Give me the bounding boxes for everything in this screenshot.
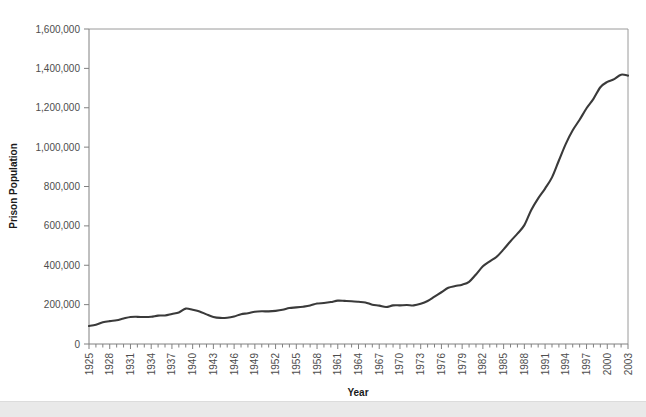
x-tick-label: 1940	[187, 353, 198, 376]
y-tick-label: 1,400,000	[36, 63, 81, 74]
x-tick-label: 1928	[104, 353, 115, 376]
x-tick-label: 1997	[581, 353, 592, 376]
x-tick-label: 1946	[229, 353, 240, 376]
x-tick-label: 2000	[602, 353, 613, 376]
figure-card: 0200,000400,000600,000800,0001,000,0001,…	[0, 0, 646, 401]
x-tick-label: 1994	[560, 353, 571, 376]
x-tick-label: 1952	[270, 353, 281, 376]
x-tick-label: 1988	[519, 353, 530, 376]
x-tick-label: 1991	[540, 353, 551, 376]
y-axis-tick-labels: 0200,000400,000600,000800,0001,000,0001,…	[36, 24, 81, 350]
x-axis-title: Year	[347, 387, 368, 398]
x-tick-label: 1961	[332, 353, 343, 376]
chart-canvas: 0200,000400,000600,000800,0001,000,0001,…	[0, 0, 646, 401]
y-axis-title: Prison Population	[8, 143, 19, 229]
y-tick-label: 200,000	[44, 299, 81, 310]
x-tick-label: 1982	[477, 353, 488, 376]
x-tick-label: 1979	[457, 353, 468, 376]
x-tick-label: 1937	[166, 353, 177, 376]
x-tick-label: 1925	[84, 353, 95, 376]
y-axis-ticks	[84, 29, 89, 344]
x-tick-label: 1973	[415, 353, 426, 376]
y-tick-label: 1,200,000	[36, 102, 81, 113]
y-tick-label: 1,000,000	[36, 142, 81, 153]
x-axis-ticks	[89, 344, 628, 349]
x-tick-label: 1931	[125, 353, 136, 376]
y-tick-label: 600,000	[44, 220, 81, 231]
x-tick-label: 1964	[353, 353, 364, 376]
x-tick-label: 1976	[436, 353, 447, 376]
x-tick-label: 1958	[312, 353, 323, 376]
y-tick-label: 800,000	[44, 181, 81, 192]
x-tick-label: 1970	[394, 353, 405, 376]
x-tick-label: 1934	[146, 353, 157, 376]
y-tick-label: 1,600,000	[36, 24, 81, 35]
x-tick-label: 1967	[374, 353, 385, 376]
page-footer-band	[0, 401, 646, 417]
y-tick-label: 400,000	[44, 260, 81, 271]
x-tick-label: 1943	[208, 353, 219, 376]
x-axis-tick-labels: 1925192819311934193719401943194619491952…	[84, 353, 634, 376]
x-tick-label: 1949	[249, 353, 260, 376]
y-tick-label: 0	[74, 339, 80, 350]
x-tick-label: 1955	[291, 353, 302, 376]
x-tick-label: 2003	[623, 353, 634, 376]
x-tick-label: 1985	[498, 353, 509, 376]
prison-population-series-line	[89, 75, 628, 326]
prison-population-line-chart: 0200,000400,000600,000800,0001,000,0001,…	[0, 0, 646, 401]
